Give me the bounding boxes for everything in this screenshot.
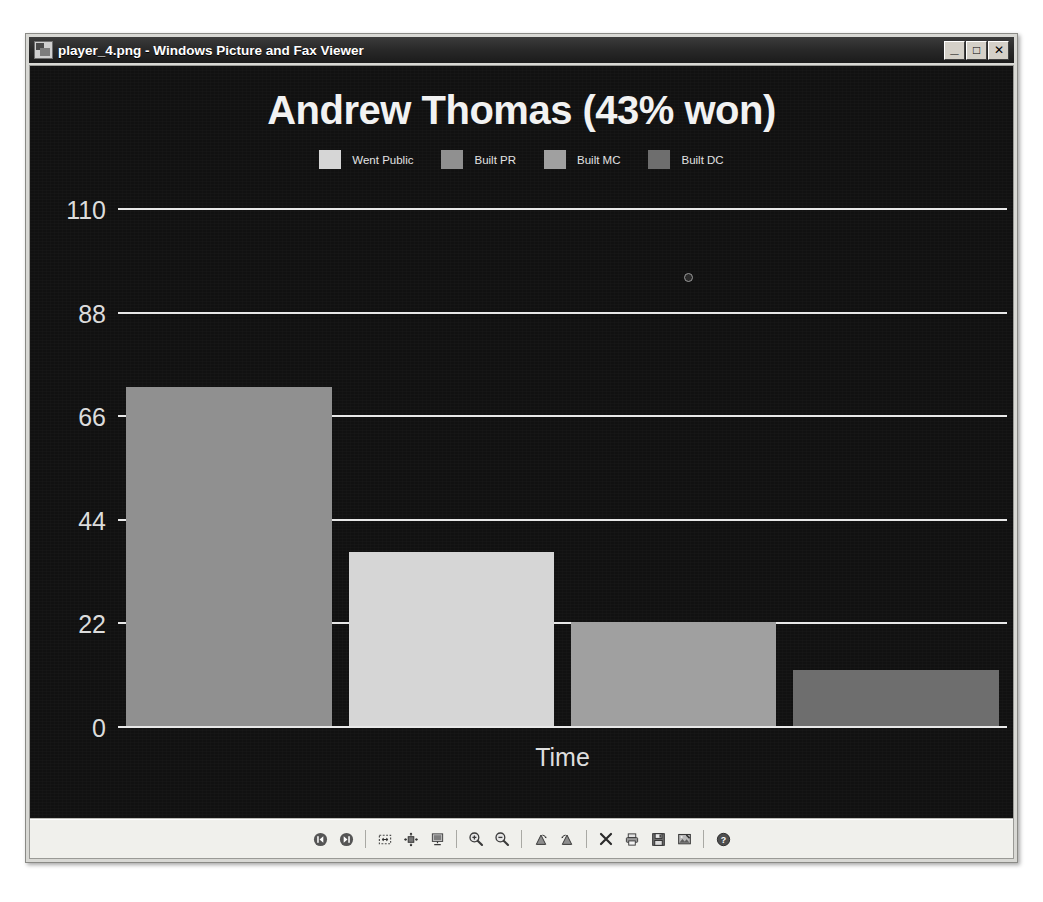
viewer-client-area: Andrew Thomas (43% won) Went PublicBuilt… <box>29 65 1014 859</box>
help-icon: ? <box>716 832 731 847</box>
toolbar-separator <box>586 830 587 848</box>
chart-title: Andrew Thomas (43% won) <box>30 88 1013 133</box>
y-axis-tick-label: 22 <box>78 610 106 639</box>
toolbar-separator <box>703 830 704 848</box>
legend-item: Built PR <box>441 150 516 169</box>
title-bar[interactable]: player_4.png - Windows Picture and Fax V… <box>29 37 1014 63</box>
actual-size-button[interactable] <box>398 826 424 852</box>
chart-bar <box>349 552 555 726</box>
legend-swatch <box>648 150 670 169</box>
rotate-clockwise-button[interactable] <box>528 826 554 852</box>
legend-swatch <box>441 150 463 169</box>
zoom-in-icon <box>468 831 484 847</box>
picture-viewer-window: player_4.png - Windows Picture and Fax V… <box>25 33 1018 863</box>
actual-size-icon <box>403 832 419 847</box>
toolbar-separator <box>521 830 522 848</box>
edit-image-button[interactable] <box>671 826 697 852</box>
zoom-in-button[interactable] <box>463 826 489 852</box>
svg-text:?: ? <box>720 834 725 844</box>
help-button[interactable]: ? <box>710 826 736 852</box>
legend-item: Went Public <box>319 150 413 169</box>
save-icon <box>651 832 666 847</box>
next-icon <box>339 832 354 847</box>
chart-legend: Went PublicBuilt PRBuilt MCBuilt DC <box>30 150 1013 169</box>
chart-bar <box>571 622 777 726</box>
legend-swatch <box>544 150 566 169</box>
zoom-out-icon <box>494 831 510 847</box>
gridline <box>118 208 1007 210</box>
y-axis-tick-label: 110 <box>66 196 106 225</box>
previous-image-button[interactable] <box>307 826 333 852</box>
plot-area: 022446688110 <box>118 210 1007 728</box>
rotate-ccw-icon <box>559 832 575 847</box>
gridline <box>118 312 1007 314</box>
y-axis-tick-label: 0 <box>92 714 106 743</box>
toolbar-separator <box>456 830 457 848</box>
maximize-button[interactable]: □ <box>966 41 987 60</box>
close-icon: ✕ <box>989 42 1008 59</box>
legend-item: Built DC <box>648 150 723 169</box>
bar-chart: Andrew Thomas (43% won) Went PublicBuilt… <box>30 66 1013 818</box>
delete-icon <box>598 831 614 847</box>
legend-label: Went Public <box>352 154 413 166</box>
slideshow-icon <box>430 832 445 847</box>
x-axis-label: Time <box>118 743 1007 772</box>
minimize-icon: _ <box>945 42 964 59</box>
image-canvas[interactable]: Andrew Thomas (43% won) Went PublicBuilt… <box>30 66 1013 819</box>
edit-icon <box>677 832 692 847</box>
best-fit-icon <box>377 832 393 847</box>
print-icon <box>624 832 640 847</box>
y-axis-tick-label: 88 <box>78 299 106 328</box>
close-button[interactable]: ✕ <box>988 41 1009 60</box>
viewer-toolbar: ? <box>30 819 1013 858</box>
legend-label: Built DC <box>681 154 723 166</box>
gridline <box>118 726 1007 728</box>
best-fit-button[interactable] <box>372 826 398 852</box>
print-button[interactable] <box>619 826 645 852</box>
chart-bar <box>793 670 999 727</box>
window-title: player_4.png - Windows Picture and Fax V… <box>58 43 364 58</box>
legend-item: Built MC <box>544 150 620 169</box>
legend-swatch <box>319 150 341 169</box>
maximize-icon: □ <box>967 42 986 59</box>
minimize-button[interactable]: _ <box>944 41 965 60</box>
y-axis-tick-label: 44 <box>78 506 106 535</box>
zoom-out-button[interactable] <box>489 826 515 852</box>
stray-marker-dot <box>684 273 693 282</box>
rotate-counterclockwise-button[interactable] <box>554 826 580 852</box>
slideshow-button[interactable] <box>424 826 450 852</box>
legend-label: Built MC <box>577 154 620 166</box>
y-axis-tick-label: 66 <box>78 403 106 432</box>
window-controls: _ □ ✕ <box>944 41 1011 60</box>
chart-bar <box>126 387 332 726</box>
picture-file-icon <box>34 41 53 59</box>
previous-icon <box>313 832 328 847</box>
legend-label: Built PR <box>474 154 516 166</box>
copy-to-button[interactable] <box>645 826 671 852</box>
rotate-cw-icon <box>533 832 549 847</box>
toolbar-separator <box>365 830 366 848</box>
delete-button[interactable] <box>593 826 619 852</box>
next-image-button[interactable] <box>333 826 359 852</box>
